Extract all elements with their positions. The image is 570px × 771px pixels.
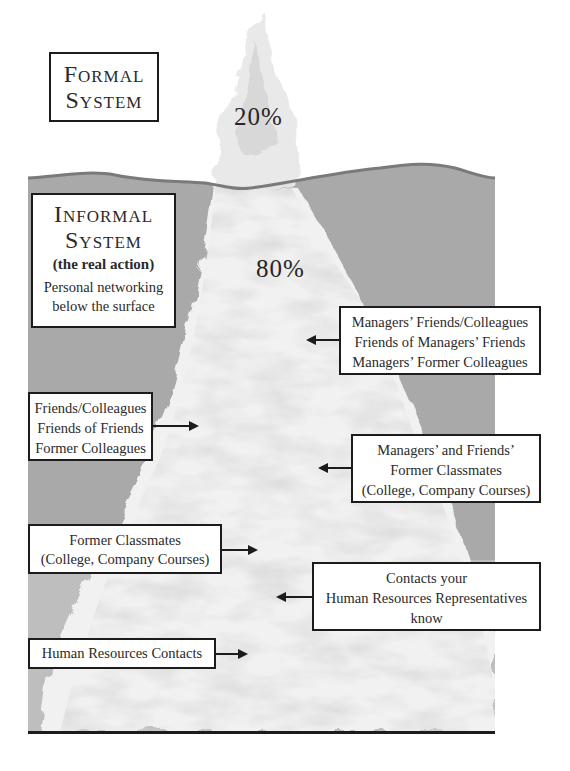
callout-managers-friends-colleagues: Managers’ Friends/Colleagues Friends of … <box>339 306 541 375</box>
below-surface-percent: 80% <box>256 255 305 283</box>
callout-line: Former Classmates <box>30 531 220 550</box>
callout-line: Managers’ and Friends’ <box>353 440 539 460</box>
callout-former-classmates: Former Classmates (College, Company Cour… <box>28 524 222 574</box>
callout-managers-friends-classmates: Managers’ and Friends’ Former Classmates… <box>351 434 541 503</box>
formal-label-line2: System <box>51 87 157 113</box>
arrow-left-icon <box>320 467 351 469</box>
callout-line: Managers’ Friends/Colleagues <box>341 312 539 332</box>
formal-label-line1: Formal <box>51 61 157 87</box>
callout-line: Former Classmates <box>353 460 539 480</box>
iceberg-diagram: Formal System 20% Informal System (the r… <box>0 0 570 771</box>
informal-subtitle: (the real action) <box>33 253 174 275</box>
informal-desc-line1: Personal networking <box>33 278 174 297</box>
callout-line: Friends/Colleagues <box>30 398 151 418</box>
informal-desc-line2: below the surface <box>33 297 174 316</box>
callout-hr-representatives-contacts: Contacts your Human Resources Representa… <box>312 562 541 631</box>
informal-system-box: Informal System (the real action) Person… <box>31 193 176 328</box>
callout-hr-contacts: Human Resources Contacts <box>28 638 216 669</box>
callout-line: (College, Company Courses) <box>353 480 539 500</box>
above-surface-percent: 20% <box>234 103 283 131</box>
iceberg-tip <box>216 6 298 188</box>
arrow-right-icon <box>153 425 197 427</box>
arrow-left-icon <box>278 596 312 598</box>
informal-label-line1: Informal <box>33 201 174 227</box>
callout-line: Friends of Friends <box>30 418 151 438</box>
callout-line: know <box>314 608 539 628</box>
seabed-line <box>28 731 495 734</box>
callout-line: Human Resources Representatives <box>314 588 539 608</box>
callout-line: Human Resources Contacts <box>30 644 214 663</box>
callout-line: Former Colleagues <box>30 438 151 458</box>
arrow-right-icon <box>216 653 246 655</box>
callout-line: Contacts your <box>314 568 539 588</box>
callout-line: Managers’ Former Colleagues <box>341 352 539 372</box>
arrow-left-icon <box>308 339 339 341</box>
formal-system-box: Formal System <box>49 52 159 122</box>
informal-label-line2: System <box>33 227 174 253</box>
arrow-right-icon <box>222 549 256 551</box>
callout-friends-colleagues: Friends/Colleagues Friends of Friends Fo… <box>28 392 153 461</box>
callout-line: (College, Company Courses) <box>30 550 220 569</box>
callout-line: Friends of Managers’ Friends <box>341 332 539 352</box>
